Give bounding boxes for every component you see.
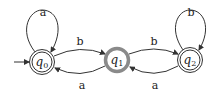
label-q2-q1: a: [152, 79, 159, 92]
state-q1: q1: [106, 49, 129, 72]
state-q0-sub: 0: [43, 61, 48, 70]
label-q2-q2: b: [187, 6, 194, 19]
state-q1-sub: 1: [118, 59, 123, 68]
transition-q0-q1: [54, 49, 105, 56]
state-q2-sub: 2: [191, 59, 196, 68]
label-q1-q0: a: [79, 79, 86, 92]
transition-q1-q2: [129, 49, 178, 54]
transition-q1-q0: [55, 66, 105, 74]
automaton-diagram: a b a b a b q0 q1 q2: [0, 0, 218, 95]
label-q0-q1: b: [76, 35, 83, 48]
state-q0: q0: [30, 50, 55, 75]
transition-q2-q1: [130, 66, 178, 73]
label-q1-q2: b: [150, 35, 157, 48]
state-q2: q2: [178, 48, 203, 73]
label-q0-q0: a: [40, 6, 47, 19]
